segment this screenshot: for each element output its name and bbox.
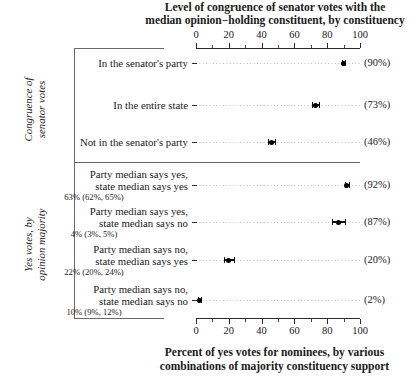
chart-title-line1: Level of congruence of senator votes wit… <box>165 1 385 13</box>
row-axis-tick <box>192 222 197 223</box>
x-minor-tick-90 <box>344 45 345 48</box>
row-axis-tick <box>192 63 197 64</box>
row-category-label: Party median says no,state median says y… <box>8 243 188 278</box>
data-point-marker <box>344 183 349 188</box>
data-point-value-label: (90%) <box>364 57 390 68</box>
x-ticklabel-0: 0 <box>181 29 211 40</box>
confidence-interval-cap-high <box>319 102 320 108</box>
x-tick-40 <box>262 43 263 48</box>
x-minor-tick-70 <box>311 45 312 48</box>
row-guide-line <box>196 260 360 261</box>
x-ticklabel-0: 0 <box>181 325 211 336</box>
x-ticklabel-100: 100 <box>345 29 375 40</box>
x-axis-top: 020406080100 <box>196 48 360 49</box>
row-sublabel: 22% (20%, 24%) <box>8 267 188 278</box>
panel-separator-bottom <box>74 318 164 319</box>
data-point-value-label: (2%) <box>364 294 385 305</box>
row-label-line2: state median says yes <box>8 180 188 192</box>
row-sublabel: 63% (62%, 65%) <box>8 192 188 203</box>
row-axis-tick <box>192 142 197 143</box>
x-minor-tick-10 <box>212 45 213 48</box>
x-tick-80 <box>327 43 328 48</box>
confidence-interval-cap-high <box>234 257 235 263</box>
row-label-line2: state median says no <box>8 217 188 229</box>
data-point-value-label: (87%) <box>364 216 390 227</box>
row-category-label: Party median says yes,state median says … <box>8 168 188 203</box>
x-axis-bottom: 020406080100 <box>196 318 360 319</box>
row-guide-line <box>196 105 360 106</box>
x-minor-tick-90 <box>344 319 345 322</box>
data-point-value-label: (46%) <box>364 136 390 147</box>
row-sublabel: 10% (9%, 12%) <box>8 307 188 318</box>
x-ticklabel-20: 20 <box>214 325 244 336</box>
x-minor-tick-50 <box>278 319 279 322</box>
x-tick-20 <box>229 43 230 48</box>
x-minor-tick-30 <box>245 319 246 322</box>
x-minor-tick-50 <box>278 45 279 48</box>
row-category-label: In the senator's party <box>8 57 188 69</box>
row-guide-line <box>196 185 360 186</box>
x-axis-label: Percent of yes votes for nominees, by va… <box>130 345 419 373</box>
confidence-interval-cap-low <box>224 257 225 263</box>
x-minor-tick-70 <box>311 319 312 322</box>
row-guide-line <box>196 300 360 301</box>
data-point-marker <box>341 61 346 66</box>
data-point-value-label: (20%) <box>364 254 390 265</box>
x-tick-40 <box>262 319 263 324</box>
x-axis-label-line2: combinations of majority constituency su… <box>160 360 389 372</box>
x-ticklabel-20: 20 <box>214 29 244 40</box>
chart-title-line2: median opinion−holding constituent, by c… <box>132 14 418 27</box>
row-label-line2: state median says no <box>8 295 188 307</box>
x-ticklabel-60: 60 <box>279 29 309 40</box>
x-tick-0 <box>196 43 197 48</box>
dot-plot-chart: Level of congruence of senator votes wit… <box>0 0 419 380</box>
data-point-marker <box>313 103 318 108</box>
row-guide-line <box>196 142 360 143</box>
x-ticklabel-60: 60 <box>279 325 309 336</box>
data-point-marker <box>197 298 202 303</box>
x-tick-60 <box>294 319 295 324</box>
row-axis-tick <box>192 185 197 186</box>
row-category-label: In the entire state <box>8 99 188 111</box>
row-label-line1: Not in the senator's party <box>8 136 188 148</box>
x-tick-0 <box>196 319 197 324</box>
x-tick-20 <box>229 319 230 324</box>
x-ticklabel-80: 80 <box>312 29 342 40</box>
row-category-label: Not in the senator's party <box>8 136 188 148</box>
x-tick-100 <box>360 319 361 324</box>
x-ticklabel-100: 100 <box>345 325 375 336</box>
data-point-marker <box>269 140 274 145</box>
x-ticklabel-80: 80 <box>312 325 342 336</box>
row-category-label: Party median says yes,state median says … <box>8 205 188 240</box>
panel-separator-middle <box>74 162 360 163</box>
x-ticklabel-40: 40 <box>247 325 277 336</box>
row-label-line1: In the entire state <box>8 99 188 111</box>
row-label-line1: Party median says yes, <box>8 168 188 180</box>
x-minor-tick-30 <box>245 45 246 48</box>
row-label-line1: In the senator's party <box>8 57 188 69</box>
data-point-marker <box>336 220 341 225</box>
data-point-value-label: (73%) <box>364 99 390 110</box>
row-guide-line <box>196 63 360 64</box>
row-label-line2: state median says yes <box>8 255 188 267</box>
x-tick-100 <box>360 43 361 48</box>
chart-title: Level of congruence of senator votes wit… <box>132 1 418 27</box>
row-axis-tick <box>192 260 197 261</box>
x-minor-tick-10 <box>212 319 213 322</box>
row-axis-tick <box>192 105 197 106</box>
row-category-label: Party median says no,state median says n… <box>8 283 188 318</box>
panel-separator-top <box>74 48 164 49</box>
row-label-line1: Party median says yes, <box>8 205 188 217</box>
x-tick-60 <box>294 43 295 48</box>
x-ticklabel-40: 40 <box>247 29 277 40</box>
x-axis-label-line1: Percent of yes votes for nominees, by va… <box>165 346 384 358</box>
confidence-interval-cap-low <box>332 219 333 225</box>
row-label-line1: Party median says no, <box>8 283 188 295</box>
x-tick-80 <box>327 319 328 324</box>
confidence-interval-cap-high <box>345 219 346 225</box>
row-label-line1: Party median says no, <box>8 243 188 255</box>
confidence-interval-cap-high <box>275 139 276 145</box>
data-point-marker <box>226 258 231 263</box>
row-sublabel: 4% (3%, 5%) <box>8 229 188 240</box>
data-point-value-label: (92%) <box>364 179 390 190</box>
